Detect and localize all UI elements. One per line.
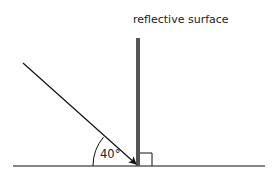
diagram-svg xyxy=(0,0,279,180)
surface-label: reflective surface xyxy=(133,13,229,26)
right-angle-marker xyxy=(140,153,152,166)
reflection-diagram: reflective surface 40° xyxy=(0,0,279,180)
reflective-surface xyxy=(136,38,140,166)
angle-label: 40° xyxy=(100,147,120,161)
